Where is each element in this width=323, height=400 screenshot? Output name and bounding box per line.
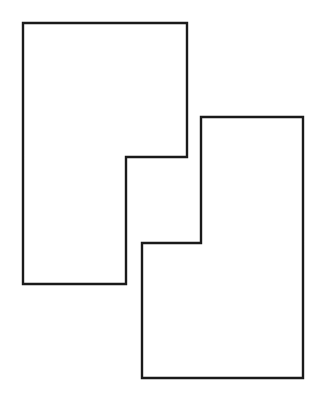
- figure-canvas: [0, 0, 323, 400]
- line-drawing-svg: [0, 0, 323, 400]
